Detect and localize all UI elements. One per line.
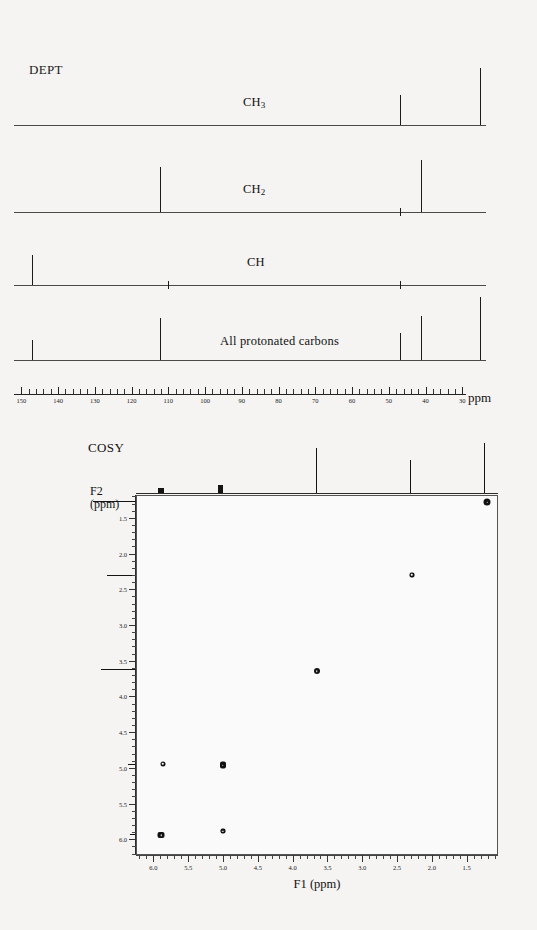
dept-ppm-axis: 15014013012011010090807060504030 ppm	[0, 386, 537, 420]
cosy-plot-area	[136, 495, 498, 855]
ppm-minor-tick	[271, 389, 272, 394]
cosy-cross-peak	[220, 762, 226, 769]
f2-major-tick	[129, 768, 136, 769]
ppm-major-tick	[168, 387, 169, 395]
f1-minor-tick	[195, 855, 196, 859]
dept-trace-all-protonated-carbons: All protonated carbons	[0, 40, 537, 430]
ppm-minor-tick	[418, 389, 419, 394]
f2-tick-label: 4.0	[119, 693, 127, 700]
f1-tick-label: 4.0	[289, 864, 297, 871]
f1-minor-tick	[251, 855, 252, 859]
top-projection-peak	[484, 443, 485, 493]
cosy-f1-axis: 6.05.55.04.54.03.53.02.52.01.5 F1 (ppm)	[136, 855, 498, 895]
f1-minor-tick	[174, 855, 175, 859]
f1-tick-label: 4.5	[254, 864, 262, 871]
ppm-tick-label: 80	[275, 397, 282, 404]
ppm-major-tick	[242, 387, 243, 395]
ppm-minor-tick	[367, 389, 368, 394]
ppm-minor-tick	[323, 389, 324, 394]
f2-major-tick	[129, 696, 136, 697]
ppm-minor-tick	[359, 389, 360, 394]
f1-minor-tick	[279, 855, 280, 859]
ppm-minor-tick	[220, 389, 221, 394]
cross-peak-center	[411, 574, 413, 576]
f1-minor-tick	[209, 855, 210, 859]
ppm-major-tick	[95, 387, 96, 395]
f1-tick-label: 5.5	[184, 864, 192, 871]
f1-major-tick	[293, 855, 294, 862]
ppm-minor-tick	[396, 389, 397, 394]
top-projection-baseline	[136, 493, 498, 494]
trace-baseline	[14, 360, 486, 361]
ppm-tick-label: 70	[312, 397, 319, 404]
ppm-minor-tick	[301, 389, 302, 394]
ppm-minor-tick	[308, 389, 309, 394]
ppm-minor-tick	[176, 389, 177, 394]
ppm-minor-tick	[198, 389, 199, 394]
figure-page: DEPT CH3CH2CHAll protonated carbons 1501…	[0, 0, 537, 930]
cosy-title: COSY	[88, 440, 124, 456]
f1-tick-label: 3.5	[323, 864, 331, 871]
f1-minor-tick	[265, 855, 266, 859]
ppm-minor-tick	[249, 389, 250, 394]
f1-major-tick	[258, 855, 259, 862]
cosy-f2-axis: 1.52.02.53.03.54.04.55.05.56.0	[118, 495, 136, 855]
f2-tick-label: 3.5	[119, 657, 127, 664]
ppm-minor-tick	[124, 389, 125, 394]
f1-major-tick	[223, 855, 224, 862]
ppm-minor-tick	[154, 389, 155, 394]
f1-minor-tick	[355, 855, 356, 859]
f1-tick-label: 2.5	[393, 864, 401, 871]
f2-major-tick	[129, 518, 136, 519]
ppm-minor-tick	[337, 389, 338, 394]
f1-minor-tick	[167, 855, 168, 859]
f2-major-tick	[129, 554, 136, 555]
ppm-tick-label: 90	[239, 397, 246, 404]
f1-tick-label: 6.0	[149, 864, 157, 871]
f1-minor-tick	[237, 855, 238, 859]
f2-tick-label: 2.0	[119, 550, 127, 557]
top-projection-peak	[410, 460, 411, 493]
ppm-unit-label: ppm	[468, 390, 491, 406]
ppm-major-tick	[205, 387, 206, 395]
ppm-minor-tick	[73, 389, 74, 394]
ppm-minor-tick	[411, 389, 412, 394]
f1-major-tick	[153, 855, 154, 862]
dept-spectra-block: DEPT CH3CH2CHAll protonated carbons	[0, 40, 537, 430]
cross-peak-center	[486, 502, 488, 504]
ppm-minor-tick	[286, 389, 287, 394]
f1-minor-tick	[230, 855, 231, 859]
ppm-minor-tick	[183, 389, 184, 394]
f1-minor-tick	[411, 855, 412, 859]
f1-minor-tick	[369, 855, 370, 859]
ppm-major-tick	[462, 387, 463, 395]
f1-major-tick	[467, 855, 468, 862]
trace-label-all-protonated-carbons: All protonated carbons	[220, 334, 339, 349]
ppm-minor-tick	[448, 389, 449, 394]
ppm-minor-tick	[80, 389, 81, 394]
cross-peak-center	[161, 835, 163, 837]
ppm-tick-label: 40	[422, 397, 429, 404]
ppm-minor-tick	[227, 389, 228, 394]
f1-minor-tick	[160, 855, 161, 859]
cosy-cross-peak	[484, 499, 491, 506]
f1-minor-tick	[216, 855, 217, 859]
ppm-minor-tick	[110, 389, 111, 394]
f1-minor-tick	[376, 855, 377, 859]
f2-tick-label: 5.0	[119, 764, 127, 771]
ppm-minor-tick	[404, 389, 405, 394]
cosy-cross-peak	[314, 668, 320, 674]
f1-major-tick	[397, 855, 398, 862]
ppm-minor-tick	[234, 389, 235, 394]
f2-tick-label: 1.5	[119, 514, 127, 521]
ppm-minor-tick	[29, 389, 30, 394]
ppm-minor-tick	[117, 389, 118, 394]
f2-tick-label: 4.5	[119, 729, 127, 736]
cosy-cross-peak	[409, 572, 414, 577]
ppm-minor-tick	[264, 389, 265, 394]
f2-tick-label: 3.0	[119, 622, 127, 629]
f1-minor-tick	[460, 855, 461, 859]
ppm-minor-tick	[65, 389, 66, 394]
ppm-minor-tick	[293, 389, 294, 394]
f1-major-tick	[188, 855, 189, 862]
